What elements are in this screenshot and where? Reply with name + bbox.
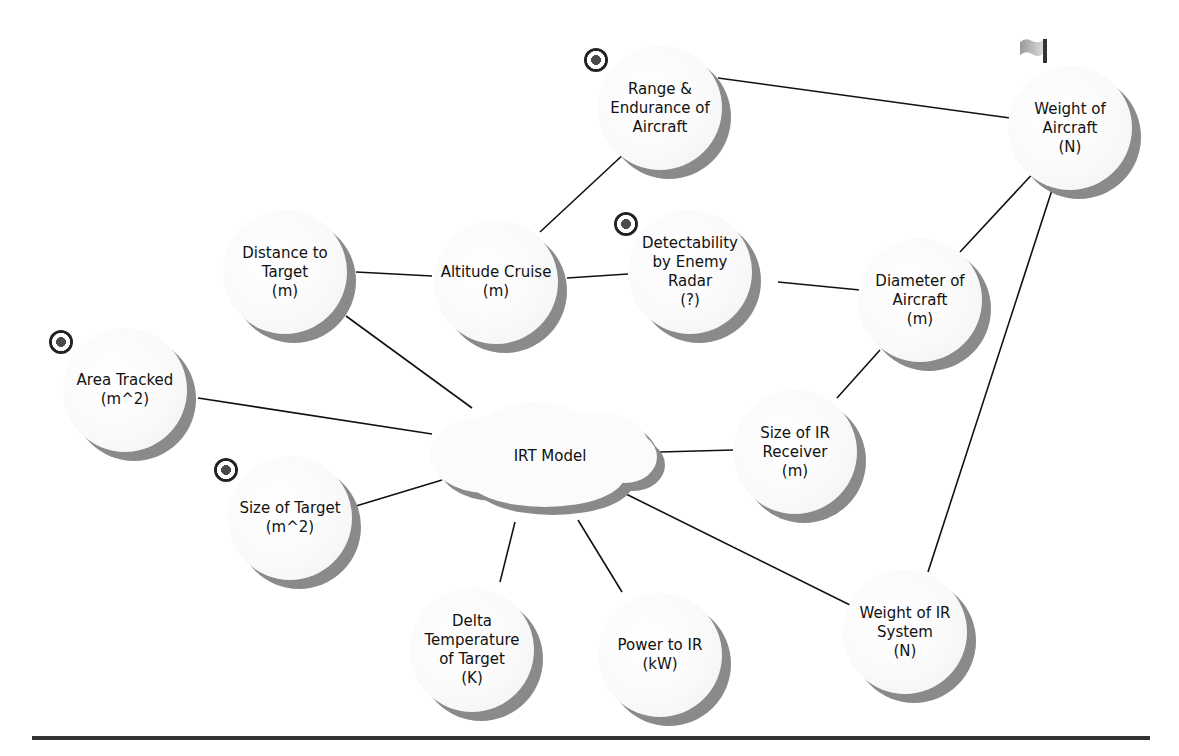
target-icon [584,48,608,72]
node-label: Detectability by Enemy Radar (?) [628,210,752,334]
edge-line [718,78,1010,118]
irt-model-node[interactable]: IRT Model [425,395,675,525]
node-label: Diameter of Aircraft (m) [858,238,982,362]
node-label: Size of IR Receiver (m) [733,390,857,514]
node-altitude[interactable]: Altitude Cruise (m) [434,220,558,344]
edge-line [198,398,432,434]
target-icon [49,330,73,354]
node-label: Size of Target (m^2) [228,456,352,580]
edge-line [578,520,622,592]
node-detectability[interactable]: Detectability by Enemy Radar (?) [628,210,752,334]
node-delta_temp[interactable]: Delta Temperature of Target (K) [410,588,534,712]
node-label: Altitude Cruise (m) [434,220,558,344]
edge-line [500,522,515,582]
node-size_target[interactable]: Size of Target (m^2) [228,456,352,580]
irt-model-label: IRT Model [425,447,675,465]
node-label: Area Tracked (m^2) [63,328,187,452]
node-label: Delta Temperature of Target (K) [410,588,534,712]
diagram-canvas: IRT Model Range & Endurance of AircraftW… [0,0,1179,756]
node-label: Distance to Target (m) [223,210,347,334]
edge-line [356,272,432,276]
node-diameter[interactable]: Diameter of Aircraft (m) [858,238,982,362]
edge-line [567,274,628,278]
node-label: Weight of IR System (N) [843,570,967,694]
node-label: Weight of Aircraft (N) [1008,66,1132,190]
node-weight_ir[interactable]: Weight of IR System (N) [843,570,967,694]
node-range[interactable]: Range & Endurance of Aircraft [598,46,722,170]
node-ir_receiver[interactable]: Size of IR Receiver (m) [733,390,857,514]
node-label: Range & Endurance of Aircraft [598,46,722,170]
flag-icon [1018,34,1048,64]
bottom-divider [32,736,1150,740]
target-icon [614,212,638,236]
edge-line [778,282,860,290]
node-power_ir[interactable]: Power to IR (kW) [598,593,722,717]
target-icon [214,458,238,482]
node-area[interactable]: Area Tracked (m^2) [63,328,187,452]
node-distance[interactable]: Distance to Target (m) [223,210,347,334]
node-weight_aircraft[interactable]: Weight of Aircraft (N) [1008,66,1132,190]
node-label: Power to IR (kW) [598,593,722,717]
